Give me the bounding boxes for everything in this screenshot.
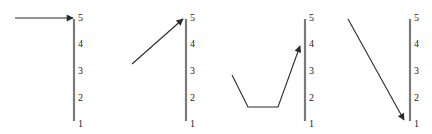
panel-3: 5 4 3 2 1 xyxy=(232,12,314,129)
label-2: 2 xyxy=(78,92,83,103)
label-3: 3 xyxy=(78,65,83,76)
label-4: 4 xyxy=(309,38,314,49)
label-1: 1 xyxy=(190,118,195,129)
panel-1: 5 4 3 2 1 xyxy=(15,12,83,129)
scale-diagram: 5 4 3 2 1 5 4 3 2 1 5 4 3 2 1 5 4 3 2 1 xyxy=(0,0,432,134)
label-4: 4 xyxy=(78,38,83,49)
label-2: 2 xyxy=(190,92,195,103)
label-3: 3 xyxy=(309,65,314,76)
label-5: 5 xyxy=(78,12,83,23)
label-5: 5 xyxy=(190,12,195,23)
label-4: 4 xyxy=(414,38,419,49)
label-1: 1 xyxy=(414,118,419,129)
label-1: 1 xyxy=(309,118,314,129)
trajectory-arrow xyxy=(132,19,183,64)
label-4: 4 xyxy=(190,38,195,49)
label-3: 3 xyxy=(414,65,419,76)
panel-4: 5 4 3 2 1 xyxy=(348,12,419,129)
trajectory-arrow xyxy=(348,19,404,120)
label-5: 5 xyxy=(309,12,314,23)
label-2: 2 xyxy=(414,92,419,103)
trajectory-arrow xyxy=(232,46,300,107)
label-1: 1 xyxy=(78,118,83,129)
label-2: 2 xyxy=(309,92,314,103)
panel-2: 5 4 3 2 1 xyxy=(132,12,195,129)
label-5: 5 xyxy=(414,12,419,23)
label-3: 3 xyxy=(190,65,195,76)
